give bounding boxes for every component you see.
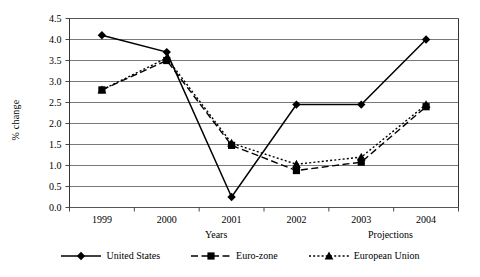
- y-tick-label: 0.5: [28, 182, 62, 192]
- legend-swatch: [308, 250, 350, 262]
- legend-item[interactable]: Euro-zone: [190, 250, 278, 262]
- series-line: [102, 61, 426, 171]
- square-marker: [98, 86, 105, 93]
- y-tick-label: 1.5: [28, 140, 62, 150]
- y-axis-title: % change: [10, 80, 21, 160]
- y-tick-label: 4.5: [28, 14, 62, 24]
- line-chart: % change 0.00.51.01.52.02.53.03.54.04.5 …: [0, 0, 480, 277]
- diamond-marker: [163, 48, 171, 56]
- y-axis-tick-marks: [66, 19, 70, 208]
- chart-legend: United StatesEuro-zoneEuropean Union: [0, 250, 480, 262]
- projections-annotation: Projections: [368, 230, 413, 240]
- legend-swatch: [190, 250, 232, 262]
- y-tick-label: 0.0: [28, 203, 62, 213]
- series-line: [102, 58, 426, 164]
- legend-label: European Union: [354, 251, 420, 261]
- plot-frame: [70, 19, 459, 208]
- x-tick-label: 2000: [137, 215, 197, 225]
- series-line: [102, 35, 426, 197]
- square-marker: [422, 103, 429, 110]
- x-tick-label: 2004: [396, 215, 456, 225]
- x-tick-label: 2002: [266, 215, 326, 225]
- y-tick-label: 1.0: [28, 161, 62, 171]
- y-tick-label: 3.0: [28, 77, 62, 87]
- square-marker: [207, 252, 214, 259]
- legend-item[interactable]: European Union: [308, 250, 420, 262]
- series-united-states: [98, 31, 431, 201]
- y-tick-label: 2.5: [28, 98, 62, 108]
- x-tick-label: 2001: [202, 215, 262, 225]
- x-tick-label: 1999: [72, 215, 132, 225]
- x-axis-tick-marks: [70, 208, 459, 212]
- diamond-marker: [77, 252, 85, 260]
- gridlines: [70, 19, 459, 208]
- y-tick-label: 2.0: [28, 119, 62, 129]
- data-series-layer: [98, 31, 431, 201]
- y-tick-label: 3.5: [28, 56, 62, 66]
- square-marker: [358, 159, 365, 166]
- series-euro-zone: [98, 57, 429, 174]
- square-marker: [293, 167, 300, 174]
- legend-label: United States: [106, 251, 160, 261]
- legend-item[interactable]: United States: [60, 250, 160, 262]
- legend-swatch: [60, 250, 102, 262]
- square-marker: [228, 142, 235, 149]
- x-tick-label: 2003: [331, 215, 391, 225]
- y-tick-label: 4.0: [28, 35, 62, 45]
- legend-label: Euro-zone: [236, 251, 278, 261]
- diamond-marker: [98, 31, 106, 39]
- x-axis-title: Years: [205, 230, 227, 240]
